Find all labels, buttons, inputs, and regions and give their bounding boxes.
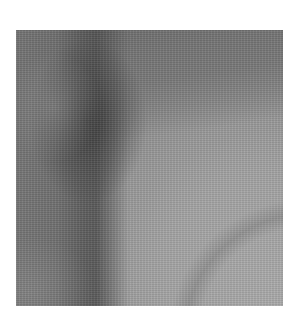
canvas — [0, 0, 300, 316]
grayscale-photo — [16, 30, 283, 306]
film-grain — [16, 30, 283, 306]
